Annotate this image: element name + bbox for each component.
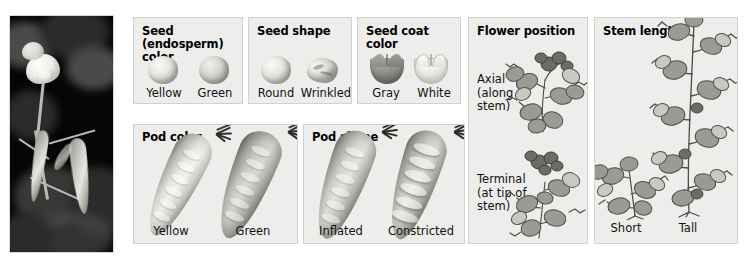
panel-title-seed-shape: Seed shape xyxy=(257,25,351,38)
trait-label-round: Round xyxy=(250,87,302,101)
trait-label-green-pod: Green xyxy=(222,225,284,239)
constricted-pea-pod-icon xyxy=(370,124,465,235)
trait-label-constricted: Constricted xyxy=(380,225,462,239)
wrinkled-seed-icon xyxy=(307,58,338,83)
panel-title-seed-coat-color: Seed coat color xyxy=(366,25,458,51)
trait-label-inflated: Inflated xyxy=(306,225,376,239)
trait-label-tall: Tall xyxy=(661,222,715,236)
tall-pea-stem-icon xyxy=(639,17,738,218)
panel-title-flower-position: Flower position xyxy=(477,25,588,38)
gray-seed-coat-icon xyxy=(370,54,404,84)
trait-label-yellow-pod: Yellow xyxy=(140,225,202,239)
trait-label-wrinkled: Wrinkled xyxy=(298,87,352,101)
trait-label-white: White xyxy=(410,87,458,101)
panel-seed-coat-color: Seed coat color Gray White xyxy=(357,17,461,104)
terminal-flower-sprig-icon xyxy=(505,146,588,242)
round-seed-light-icon xyxy=(148,56,178,84)
panel-seed-color: Seed (endosperm) color Yellow Green xyxy=(133,17,243,104)
trait-label-green-seed: Green xyxy=(191,87,239,101)
panel-pod-color: Pod color xyxy=(133,124,298,244)
round-seed-dark-icon xyxy=(199,56,229,84)
panel-stem-length: Stem length xyxy=(594,17,738,244)
green-pea-pod-icon xyxy=(202,124,298,237)
trait-label-short: Short xyxy=(597,222,655,236)
round-seed-icon xyxy=(261,56,291,84)
pea-trait-figure: Seed (endosperm) color Yellow Green Seed… xyxy=(0,0,755,262)
white-seed-coat-icon xyxy=(414,54,448,84)
panel-seed-shape: Seed shape Round Wrinkled xyxy=(248,17,352,104)
trait-label-yellow-seed: Yellow xyxy=(140,87,188,101)
axial-flower-sprig-icon xyxy=(497,46,588,136)
panel-flower-position: Flower position Axial (along stem) Termi… xyxy=(468,17,588,244)
panel-pod-shape: Pod shape xyxy=(303,124,465,244)
pea-plant-photograph xyxy=(10,16,113,252)
trait-label-gray: Gray xyxy=(362,87,410,101)
